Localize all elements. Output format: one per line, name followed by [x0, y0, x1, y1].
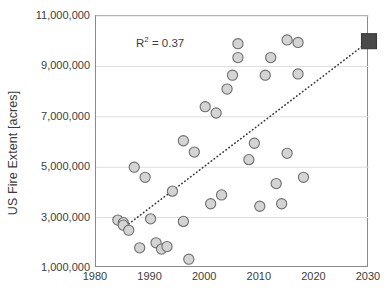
data-point: [206, 199, 216, 209]
y-axis-tick-labels: 1,000,0003,000,0005,000,0007,000,0009,00…: [0, 15, 90, 267]
y-tick-label: 3,000,000: [4, 211, 90, 223]
data-point: [271, 178, 281, 188]
trendline: [129, 41, 369, 224]
data-point: [293, 69, 303, 79]
data-point: [200, 102, 210, 112]
data-point: [162, 241, 172, 251]
data-point: [233, 52, 243, 62]
data-point: [140, 172, 150, 182]
data-point: [211, 108, 221, 118]
data-point: [189, 147, 199, 157]
y-tick-label: 9,000,000: [4, 59, 90, 71]
data-point: [277, 199, 287, 209]
data-point: [184, 254, 194, 264]
data-point: [282, 148, 292, 158]
data-point: [124, 225, 134, 235]
x-tick-label: 2010: [229, 270, 289, 282]
trendline-path: [129, 41, 369, 224]
data-point: [167, 186, 177, 196]
data-point: [178, 216, 188, 226]
x-tick-label: 2000: [174, 270, 234, 282]
data-point: [216, 190, 226, 200]
y-tick-label: 11,000,000: [4, 9, 90, 21]
data-point: [249, 138, 259, 148]
x-axis-tick-labels: 198019902000201020202030: [95, 270, 368, 290]
data-point: [244, 155, 254, 165]
plot-area: [95, 15, 368, 267]
data-point: [255, 201, 265, 211]
data-point: [135, 243, 145, 253]
projection-marker: [362, 34, 377, 49]
data-points: [113, 34, 377, 265]
data-point: [129, 162, 139, 172]
data-point: [282, 35, 292, 45]
scatter-chart: US Fire Extent [acres] 1,000,0003,000,00…: [0, 0, 392, 306]
data-point: [298, 172, 308, 182]
data-point: [227, 70, 237, 80]
data-point: [260, 70, 270, 80]
plot-canvas: [96, 16, 369, 268]
data-point: [233, 39, 243, 49]
x-tick-label: 2020: [283, 270, 343, 282]
data-point: [222, 84, 232, 94]
r-squared-annotation: R2 = 0.37: [136, 35, 184, 49]
y-tick-label: 7,000,000: [4, 110, 90, 122]
data-point: [146, 214, 156, 224]
x-tick-label: 2030: [338, 270, 392, 282]
y-tick-label: 5,000,000: [4, 160, 90, 172]
data-point: [293, 37, 303, 47]
data-point: [178, 136, 188, 146]
x-tick-label: 1980: [65, 270, 125, 282]
data-point: [266, 52, 276, 62]
x-tick-label: 1990: [120, 270, 180, 282]
